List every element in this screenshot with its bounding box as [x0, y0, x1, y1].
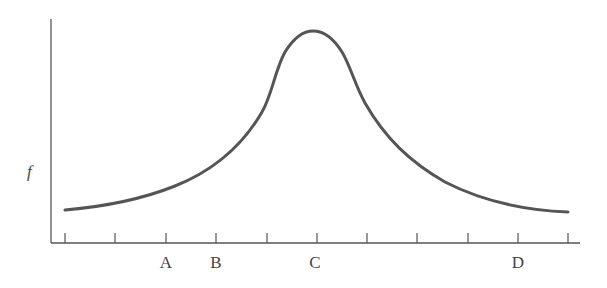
- f-curve: [65, 31, 568, 212]
- x-ticks: [65, 233, 568, 243]
- y-axis-label: f: [27, 162, 34, 181]
- tick-label-c: C: [309, 253, 320, 272]
- tick-label-a: A: [160, 253, 173, 272]
- chart: f A B C D: [0, 0, 607, 288]
- tick-label-b: B: [210, 253, 221, 272]
- tick-label-d: D: [512, 253, 524, 272]
